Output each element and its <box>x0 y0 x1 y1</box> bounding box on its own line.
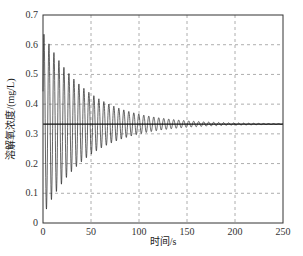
x-tick-label: 100 <box>132 226 147 237</box>
y-axis-ticks: 00.10.20.30.40.50.60.7 <box>26 9 39 228</box>
y-tick-label: 0.1 <box>26 187 39 198</box>
data-series <box>43 34 283 209</box>
plot-frame <box>43 15 283 223</box>
grid-lines <box>43 15 283 223</box>
y-tick-label: 0.4 <box>26 98 39 109</box>
x-tick-label: 50 <box>86 226 96 237</box>
chart-canvas: 050100150200250 00.10.20.30.40.50.60.7 时… <box>0 0 303 256</box>
y-axis-label: 溶解氧浓度/(mg/L) <box>4 78 17 159</box>
y-tick-label: 0.2 <box>26 158 39 169</box>
y-tick-label: 0.3 <box>26 128 39 139</box>
x-tick-label: 0 <box>41 226 46 237</box>
y-tick-label: 0.6 <box>26 39 39 50</box>
x-tick-label: 200 <box>228 226 243 237</box>
y-tick-label: 0.7 <box>26 9 39 20</box>
x-tick-label: 150 <box>180 226 195 237</box>
x-axis-label: 时间/s <box>150 235 177 247</box>
y-tick-label: 0.5 <box>26 68 39 79</box>
y-tick-label: 0 <box>33 217 38 228</box>
x-tick-label: 250 <box>276 226 291 237</box>
